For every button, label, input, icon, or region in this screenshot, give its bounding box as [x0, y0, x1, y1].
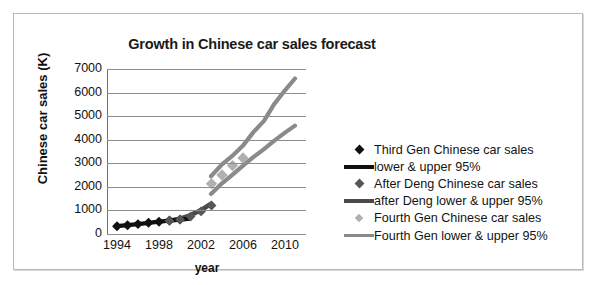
gridline	[107, 187, 306, 188]
y-tick: 7000	[56, 61, 102, 75]
legend-item-after-deng-ci[interactable]: after Deng lower & upper 95%	[344, 193, 594, 210]
data-series-layer	[107, 69, 306, 234]
gridline	[107, 163, 306, 164]
x-tick: 1994	[97, 238, 137, 252]
gridline	[107, 93, 306, 94]
legend-label: Fourth Gen lower & upper 95%	[374, 229, 548, 243]
x-axis-ticks: 1994 1998 2002 2006 2010	[107, 238, 306, 256]
gridline	[107, 116, 306, 117]
legend-item-after-deng-sales[interactable]: After Deng Chinese car sales	[344, 175, 594, 192]
legend-label: After Deng Chinese car sales	[374, 177, 538, 191]
third-gen-markers	[112, 215, 185, 231]
legend-item-fourth-gen-ci[interactable]: Fourth Gen lower & upper 95%	[344, 227, 594, 244]
line-marker-icon	[344, 234, 374, 237]
x-axis-label: year	[107, 261, 307, 275]
x-tick: 2006	[223, 238, 263, 252]
after-deng-markers	[165, 201, 217, 226]
legend-label: lower & upper 95%	[374, 160, 480, 174]
legend-item-third-gen-ci[interactable]: lower & upper 95%	[344, 158, 594, 175]
legend-label: Third Gen Chinese car sales	[374, 143, 534, 157]
y-tick: 3000	[56, 155, 102, 169]
y-axis-ticks: 7000 6000 5000 4000 3000 2000 1000 0	[54, 69, 102, 234]
legend-label: after Deng lower & upper 95%	[374, 194, 543, 208]
y-tick: 2000	[56, 179, 102, 193]
x-tick: 2002	[181, 238, 221, 252]
legend-label: Fourth Gen Chinese car sales	[374, 211, 541, 225]
x-tick: 2010	[265, 238, 305, 252]
diamond-marker-icon	[344, 215, 374, 221]
plot-area	[107, 69, 306, 234]
diamond-marker-icon	[344, 146, 374, 153]
y-tick: 4000	[56, 132, 102, 146]
chart-legend: Third Gen Chinese car sales lower & uppe…	[344, 141, 594, 244]
diamond-marker-icon	[344, 180, 374, 187]
y-axis-line	[107, 69, 108, 234]
legend-item-third-gen-sales[interactable]: Third Gen Chinese car sales	[344, 141, 594, 158]
y-tick: 6000	[56, 85, 102, 99]
legend-item-fourth-gen-sales[interactable]: Fourth Gen Chinese car sales	[344, 210, 594, 227]
x-tick: 1998	[139, 238, 179, 252]
line-marker-icon	[344, 199, 374, 203]
gridline	[107, 234, 306, 235]
line-marker-icon	[344, 165, 374, 169]
gridline	[107, 140, 306, 141]
y-tick: 1000	[56, 202, 102, 216]
chart-frame: Growth in Chinese car sales forecast Chi…	[13, 13, 583, 270]
gridline	[107, 69, 306, 70]
gridline	[107, 210, 306, 211]
chart-title: Growth in Chinese car sales forecast	[92, 36, 412, 52]
y-tick: 0	[56, 226, 102, 240]
y-axis-label: Chinese car sales (K)	[35, 29, 50, 209]
y-tick: 5000	[56, 108, 102, 122]
